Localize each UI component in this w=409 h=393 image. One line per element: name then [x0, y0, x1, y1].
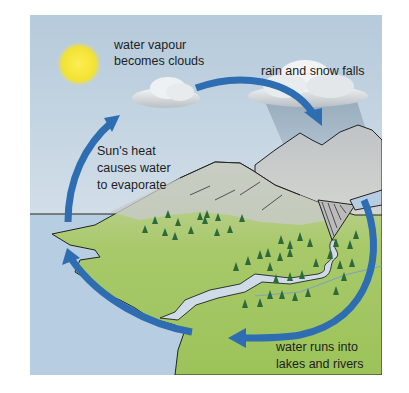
- label-collection-line2: lakes and rivers: [276, 356, 364, 372]
- label-evaporation-line3: to evaporate: [97, 177, 167, 193]
- label-condensation-line1: water vapour: [114, 37, 186, 53]
- label-condensation-line2: becomes clouds: [114, 53, 204, 69]
- sun-icon: [57, 42, 101, 86]
- label-collection-line1: water runs into: [276, 339, 358, 355]
- label-evaporation-line1: Sun's heat: [97, 143, 156, 159]
- label-evaporation-line2: causes water: [97, 160, 171, 176]
- water-cycle-diagram: water vapour becomes clouds rain and sno…: [0, 0, 409, 393]
- label-precipitation: rain and snow falls: [261, 63, 365, 79]
